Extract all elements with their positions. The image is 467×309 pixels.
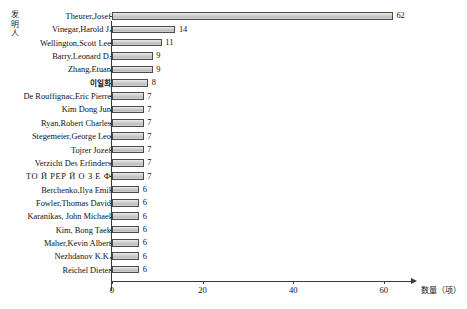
x-axis-arrow	[411, 278, 417, 284]
bar	[112, 186, 139, 194]
bar-row: Barry,Leonard D.9	[0, 50, 467, 63]
bar	[112, 172, 144, 180]
bar-row: Theurer,Josef62	[0, 10, 467, 23]
category-label: De Rouffignac,Eric Pierre	[23, 90, 111, 103]
plot-area: Theurer,Josef62Vinegar,Harold J.14Wellin…	[0, 10, 467, 280]
bar	[112, 266, 139, 274]
category-label: Tojrer Jozef	[71, 144, 111, 157]
bar-value-label: 6	[143, 183, 147, 196]
category-label: Vinegar,Harold J.	[52, 23, 111, 36]
bar-value-label: 7	[147, 143, 151, 156]
category-label: Ryan,Robert Charles	[41, 117, 111, 130]
category-label: Berchenko,Ilya Emil	[41, 184, 111, 197]
bar	[112, 92, 144, 100]
bar-value-label: 7	[147, 103, 151, 116]
x-axis-tick	[384, 281, 385, 284]
category-label: Karanikas, John Michael	[28, 210, 112, 223]
bar-row: Kim, Bong Taek6	[0, 224, 467, 237]
bar-value-label: 6	[143, 236, 147, 249]
bar-row: Karanikas, John Michael6	[0, 210, 467, 223]
bar-row: Reichel Dieter6	[0, 264, 467, 277]
bar	[112, 79, 148, 87]
x-axis-tick-label: 60	[380, 285, 389, 295]
bar-value-label: 6	[143, 196, 147, 209]
bar	[112, 199, 139, 207]
bar	[112, 66, 153, 74]
bar-row: Vinegar,Harold J.14	[0, 23, 467, 36]
bar-row: Berchenko,Ilya Emil6	[0, 184, 467, 197]
bar	[112, 52, 153, 60]
category-label: Kim Dong Jun	[62, 103, 111, 116]
bar-value-label: 14	[179, 23, 187, 36]
bar-row: Maher,Kevin Albert6	[0, 237, 467, 250]
bar-row: ТО Й РЕР Й О З Е Ф7	[0, 170, 467, 183]
bar-value-label: 9	[156, 49, 160, 62]
bar-chart: 发 明 人 Theurer,Josef62Vinegar,Harold J.14…	[0, 0, 467, 309]
bar-value-label: 7	[147, 156, 151, 169]
bar	[112, 239, 139, 247]
bar-value-label: 7	[147, 90, 151, 103]
x-axis-tick	[293, 281, 294, 284]
category-label: Stegemeier,George Leo	[32, 130, 111, 143]
bar-value-label: 6	[143, 263, 147, 276]
bar-row: Ryan,Robert Charles7	[0, 117, 467, 130]
bar	[112, 39, 162, 47]
bar	[112, 106, 144, 114]
bar	[112, 26, 175, 34]
bar-row: Nezhdanov K.K.6	[0, 250, 467, 263]
category-label: Barry,Leonard D.	[52, 50, 111, 63]
bar-value-label: 62	[396, 9, 404, 22]
bar-row: Kim Dong Jun7	[0, 103, 467, 116]
bar	[112, 159, 144, 167]
bar	[112, 132, 144, 140]
bar	[112, 146, 144, 154]
bar-row: Tojrer Jozef7	[0, 144, 467, 157]
bar-value-label: 6	[143, 223, 147, 236]
category-label: ТО Й РЕР Й О З Е Ф	[26, 170, 111, 183]
x-axis-tick	[112, 281, 113, 284]
bar-row: Zhang,Etuan9	[0, 63, 467, 76]
category-label: Zhang,Etuan	[68, 63, 111, 76]
bar-value-label: 11	[165, 36, 173, 49]
bar	[112, 226, 139, 234]
bar-row: De Rouffignac,Eric Pierre7	[0, 90, 467, 103]
x-axis-tick-label: 0	[110, 285, 114, 295]
category-label: Fowler,Thomas David	[36, 197, 111, 210]
category-label: Reichel Dieter	[62, 264, 111, 277]
bar-row: Verzicht Des Erfinders7	[0, 157, 467, 170]
x-axis-line	[112, 281, 412, 282]
bar	[112, 212, 139, 220]
x-axis-title: 数量（项）	[421, 284, 461, 295]
category-label: Verzicht Des Erfinders	[35, 157, 111, 170]
category-label: Kim, Bong Taek	[56, 224, 111, 237]
bar-row: Fowler,Thomas David6	[0, 197, 467, 210]
category-label: 이일희	[90, 77, 111, 90]
bar-value-label: 7	[147, 130, 151, 143]
bar-value-label: 7	[147, 170, 151, 183]
bar-value-label: 7	[147, 116, 151, 129]
category-label: Wellington,Scott Lee	[40, 37, 111, 50]
bar-value-label: 6	[143, 250, 147, 263]
x-axis-tick-label: 20	[198, 285, 207, 295]
x-axis-tick	[203, 281, 204, 284]
bar	[112, 252, 139, 260]
bar-value-label: 9	[156, 63, 160, 76]
bar	[112, 119, 144, 127]
bar-row: Wellington,Scott Lee11	[0, 37, 467, 50]
bar	[112, 12, 393, 20]
category-label: Nezhdanov K.K.	[54, 250, 111, 263]
category-label: Maher,Kevin Albert	[44, 237, 111, 250]
bar-value-label: 6	[143, 210, 147, 223]
bar-row: 이일희8	[0, 77, 467, 90]
bar-value-label: 8	[152, 76, 156, 89]
category-label: Theurer,Josef	[66, 10, 111, 23]
bar-row: Stegemeier,George Leo7	[0, 130, 467, 143]
x-axis-tick-label: 40	[289, 285, 298, 295]
